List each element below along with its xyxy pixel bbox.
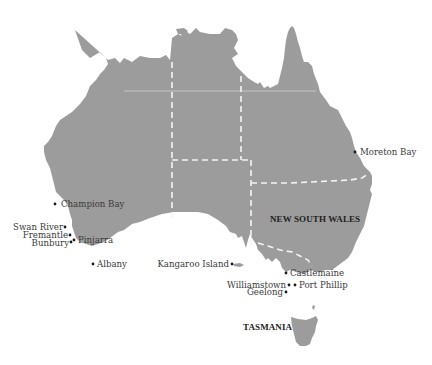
fremantle-marker[interactable] <box>69 234 72 237</box>
albany-marker[interactable] <box>92 263 95 266</box>
place-markers <box>0 0 432 365</box>
label-kangaroo-island[interactable]: Kangaroo Island <box>157 260 229 269</box>
swan-river-marker[interactable] <box>64 226 67 229</box>
label-albany[interactable]: Albany <box>97 260 127 269</box>
label-castlemaine[interactable]: Castlemaine <box>290 269 344 278</box>
label-port-phillip[interactable]: Port Phillip <box>299 281 348 290</box>
region-label-tasmania: TASMANIA <box>243 323 292 332</box>
kangaroo-island-marker[interactable] <box>231 263 234 266</box>
port-phillip-marker[interactable] <box>294 284 297 287</box>
label-geelong[interactable]: Geelong <box>247 288 283 297</box>
region-label-new-south-wales: NEW SOUTH WALES <box>270 215 360 224</box>
label-pinjarra[interactable]: Pinjarra <box>78 236 113 245</box>
label-bunbury[interactable]: Bunbury <box>32 239 69 248</box>
moreton-bay-marker[interactable] <box>354 151 357 154</box>
label-champion-bay[interactable]: Champion Bay <box>61 200 124 209</box>
bunbury-marker[interactable] <box>70 241 73 244</box>
williamstown-marker[interactable] <box>288 284 291 287</box>
castlemaine-marker[interactable] <box>285 272 288 275</box>
geelong-marker[interactable] <box>285 291 288 294</box>
champion-bay-marker[interactable] <box>54 203 57 206</box>
pinjarra-marker[interactable] <box>73 239 76 242</box>
label-moreton-bay[interactable]: Moreton Bay <box>360 148 416 157</box>
